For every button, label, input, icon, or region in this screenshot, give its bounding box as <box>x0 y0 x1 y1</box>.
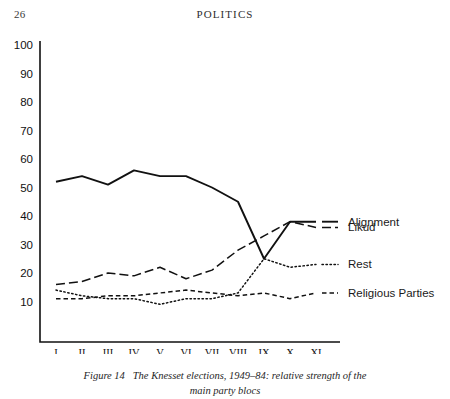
x-tick-roman: XI <box>310 347 322 354</box>
x-tick-roman: IX <box>258 347 269 354</box>
y-tick-label: 40 <box>20 210 33 222</box>
x-tick-roman: I <box>54 347 58 354</box>
chart-figure: 102030405060708090100 I1949II1951III1955… <box>0 34 450 354</box>
y-tick-label: 80 <box>20 96 33 108</box>
figure-number: Figure 14 <box>84 370 125 381</box>
x-tick-roman: II <box>79 347 86 354</box>
x-tick-roman: IV <box>128 347 139 354</box>
legend-label-rest: Rest <box>348 258 372 270</box>
y-tick-label: 70 <box>20 125 33 137</box>
caption-line-1: The Knesset elections, 1949–84: relative… <box>133 370 367 381</box>
y-axis-ticks: 102030405060708090100 <box>14 39 33 308</box>
series-line-likud <box>56 222 316 285</box>
series-line-religious-parties <box>56 290 316 299</box>
series-line-alignment <box>56 170 316 258</box>
y-tick-label: 10 <box>20 296 33 308</box>
chart-legend: AlignmentLikudRestReligious Parties <box>322 216 435 299</box>
y-tick-label: 100 <box>14 39 33 51</box>
x-tick-roman: VII <box>205 347 220 354</box>
running-head: POLITICS <box>0 8 450 20</box>
y-tick-label: 50 <box>20 182 33 194</box>
x-tick-roman: VIII <box>229 347 248 354</box>
legend-label-likud: Likud <box>348 221 376 233</box>
legend-label-religious-parties: Religious Parties <box>348 287 435 299</box>
line-chart: 102030405060708090100 I1949II1951III1955… <box>0 34 450 354</box>
x-axis-ticks: I1949II1951III1955IV1959V1961VI1965VII19… <box>45 347 328 354</box>
x-tick-roman: X <box>286 347 294 354</box>
caption-line-2: main party blocs <box>0 383 450 398</box>
y-tick-label: 90 <box>20 68 33 80</box>
book-page: 26 POLITICS 102030405060708090100 I1949I… <box>0 0 450 399</box>
x-tick-roman: V <box>156 347 164 354</box>
chart-series <box>56 170 316 304</box>
x-tick-roman: III <box>103 347 114 354</box>
x-tick-roman: VI <box>180 347 192 354</box>
y-tick-label: 60 <box>20 153 33 165</box>
y-tick-label: 30 <box>20 239 33 251</box>
figure-caption: Figure 14 The Knesset elections, 1949–84… <box>0 368 450 398</box>
y-tick-label: 20 <box>20 267 33 279</box>
